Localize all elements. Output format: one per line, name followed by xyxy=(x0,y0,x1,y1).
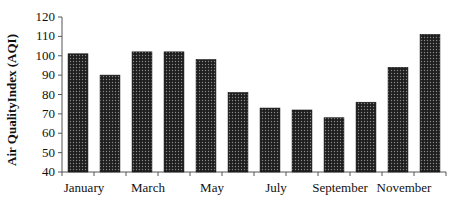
x-axis-labels: JanuaryMarchMayJulySeptemberNovember xyxy=(64,180,432,195)
x-tick-label: March xyxy=(131,180,165,195)
bar-january xyxy=(68,54,88,172)
y-tick-label: 80 xyxy=(42,87,55,102)
bar-august xyxy=(292,110,312,172)
y-axis-tick-labels: 405060708090100110120 xyxy=(36,9,56,179)
x-tick-label: November xyxy=(377,180,433,195)
bar-february xyxy=(100,75,120,172)
bar-november xyxy=(388,67,408,172)
x-tick-label: July xyxy=(265,180,287,195)
y-tick-label: 50 xyxy=(42,145,55,160)
y-tick-label: 40 xyxy=(42,164,55,179)
bar-june xyxy=(228,93,248,172)
bar-july xyxy=(260,108,280,172)
bar-october xyxy=(356,102,376,172)
bar-september xyxy=(324,118,344,172)
bars xyxy=(68,34,440,172)
bar-march xyxy=(132,52,152,172)
x-tick-label: September xyxy=(312,180,368,195)
x-tick-label: January xyxy=(64,180,105,195)
y-tick-label: 110 xyxy=(36,28,55,43)
bar-chart: JanuaryMarchMayJulySeptemberNovember 405… xyxy=(0,0,458,206)
y-tick-label: 70 xyxy=(42,106,55,121)
bar-april xyxy=(164,52,184,172)
y-tick-label: 60 xyxy=(42,125,55,140)
y-tick-label: 90 xyxy=(42,67,55,82)
x-tick-label: May xyxy=(200,180,224,195)
bar-may xyxy=(196,60,216,172)
y-tick-label: 120 xyxy=(36,9,56,24)
bar-december xyxy=(420,34,440,172)
y-tick-label: 100 xyxy=(36,48,56,63)
